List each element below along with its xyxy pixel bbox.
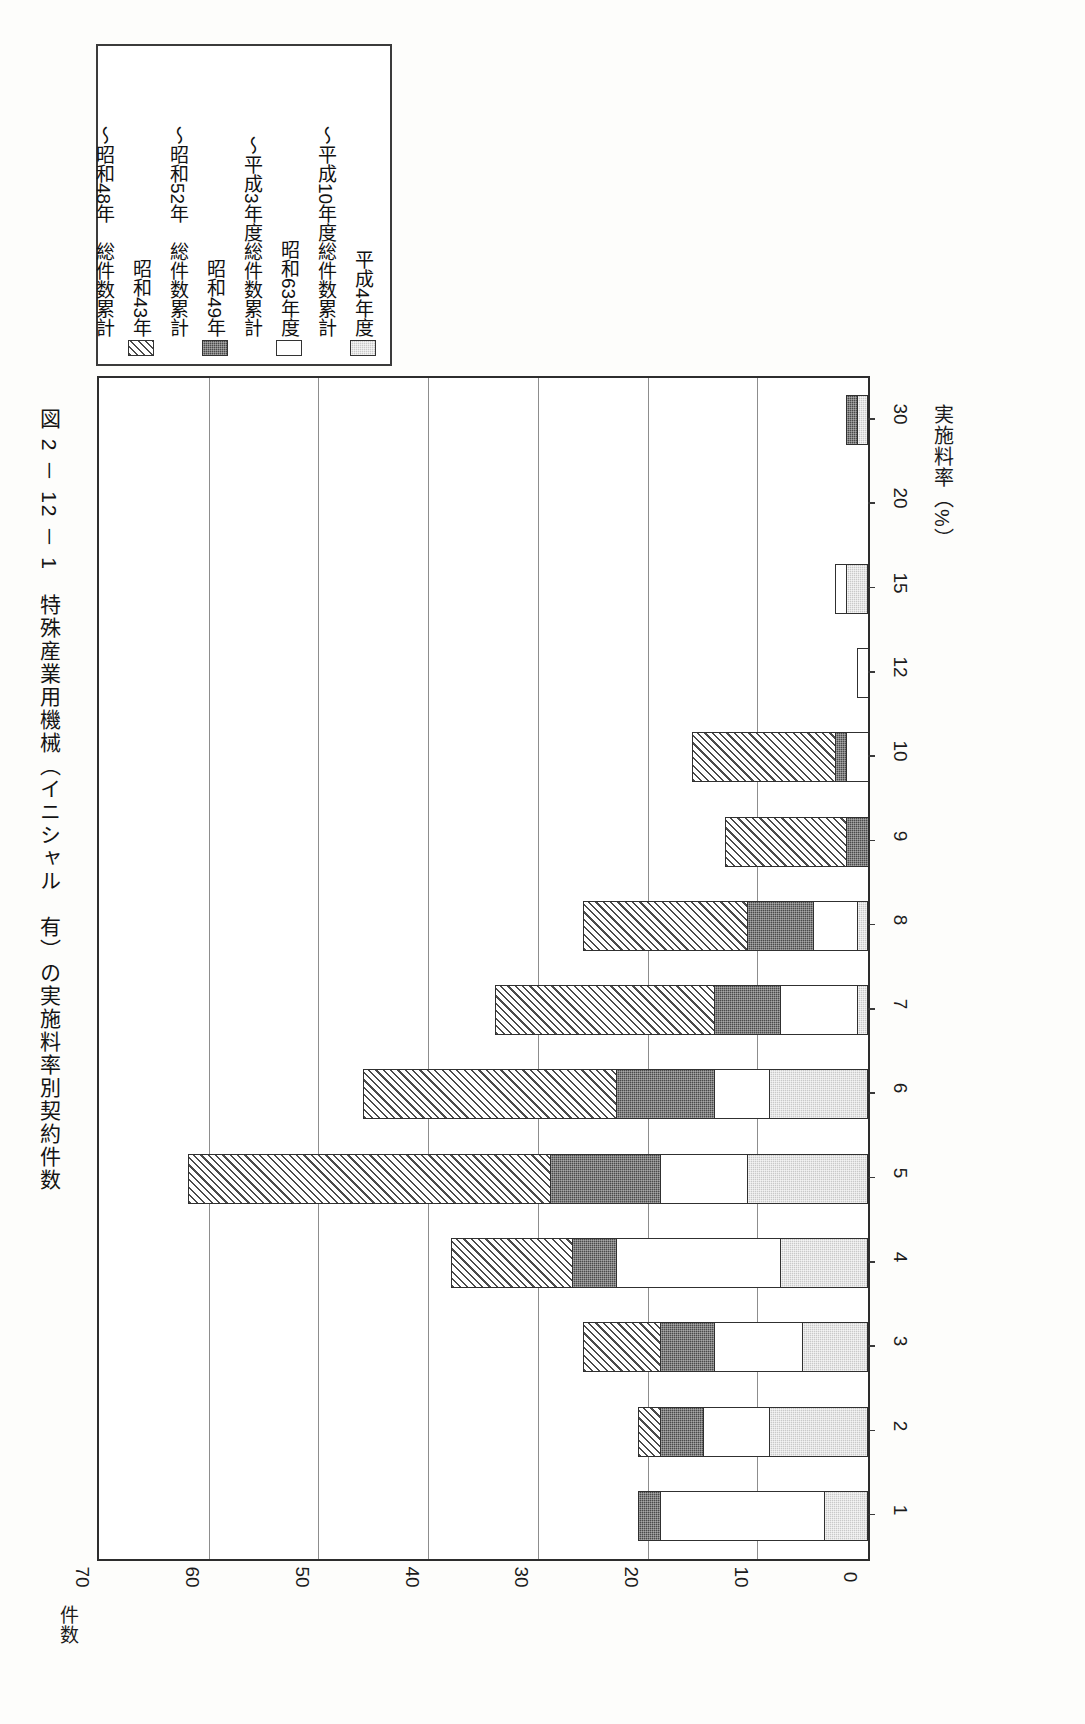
legend-swatch-none [239, 340, 265, 356]
bar-segment-white [780, 985, 857, 1035]
category-tick-4: 4 [874, 1246, 926, 1276]
value-tick-label: 70 [71, 1566, 93, 1587]
category-tick-label: 30 [889, 404, 911, 425]
value-tick-label: 20 [620, 1566, 642, 1587]
category-tick-label: 5 [889, 1167, 911, 1178]
value-axis-title: 件数 [52, 1606, 86, 1646]
category-tick-8: 8 [874, 909, 926, 939]
bar-row [363, 1069, 868, 1119]
category-tick-label: 10 [889, 741, 911, 762]
bar-segment-white [714, 1322, 802, 1372]
bar-segment-hatch [583, 901, 748, 951]
legend-item-label: 〜平成10年度総件数累計 [316, 126, 335, 337]
legend-item: 〜昭和48年 総件数累計 [86, 52, 121, 356]
legend-swatch-light-gray [350, 340, 376, 356]
value-tick-0: 0 [830, 1566, 870, 1588]
bar-segment-hatch [451, 1238, 572, 1288]
legend-swatch-none [165, 340, 191, 356]
bar-row [857, 648, 868, 698]
category-tick-label: 4 [889, 1252, 911, 1263]
category-tick-6: 6 [874, 1077, 926, 1107]
legend-item: 昭和63年度 [271, 52, 306, 356]
legend-item-label: 昭和63年度 [279, 240, 298, 337]
bar-segment-gray [780, 1238, 868, 1288]
bar-segment-white [616, 1238, 781, 1288]
bar-segment-gray [857, 901, 868, 951]
bar-segment-dark [660, 1407, 704, 1457]
bar-segment-dark [714, 985, 780, 1035]
bar-segment-white [846, 732, 868, 782]
bar-segment-gray [747, 1154, 868, 1204]
category-tick-label: 6 [889, 1083, 911, 1094]
category-tick-label: 20 [889, 488, 911, 509]
legend-item-label: 昭和49年 [205, 259, 224, 337]
category-tick-label: 9 [889, 830, 911, 841]
chart-legend: 平成4年度 〜平成10年度総件数累計 昭和63年度 〜平成3年度総件数累計 [96, 44, 392, 366]
category-tick-30: 30 [874, 403, 926, 433]
category-tick-15: 15 [874, 572, 926, 602]
value-tick-label: 0 [839, 1572, 861, 1583]
category-tick-label: 3 [889, 1336, 911, 1347]
bar-segment-white [835, 564, 846, 614]
legend-swatch-none [91, 340, 117, 356]
bar-row [583, 901, 868, 951]
bar-segment-dark [846, 817, 868, 867]
bar-row [692, 732, 868, 782]
value-tick-label: 10 [729, 1566, 751, 1587]
legend-item: 〜平成3年度総件数累計 [234, 52, 269, 356]
bar-segment-hatch [692, 732, 835, 782]
value-tick-70: 70 [62, 1566, 102, 1588]
bar-segment-dark [846, 395, 857, 445]
bar-segment-gray [857, 985, 868, 1035]
value-tick-label: 50 [290, 1566, 312, 1587]
bar-row [583, 1322, 868, 1372]
legend-item: 平成4年度 [345, 52, 380, 356]
bar-segment-hatch [188, 1154, 550, 1204]
bar-row [725, 817, 868, 867]
bar-row [638, 1407, 868, 1457]
legend-item-label: 〜昭和52年 総件数累計 [168, 126, 187, 337]
legend-swatch-dark [202, 340, 228, 356]
bar-segment-white [714, 1069, 769, 1119]
legend-item: 〜昭和52年 総件数累計 [160, 52, 195, 356]
category-tick-2: 2 [874, 1415, 926, 1445]
bar-row [188, 1154, 868, 1204]
category-tick-10: 10 [874, 740, 926, 770]
bar-segment-white [813, 901, 857, 951]
value-tick-10: 10 [720, 1566, 760, 1588]
category-axis-title: 実施料率（%） [928, 404, 957, 549]
category-tick-label: 7 [889, 999, 911, 1010]
value-axis-ticks: 706050403020100 [97, 1566, 870, 1626]
category-axis-ticks: 1234567891012152030 [874, 376, 926, 1561]
legend-item: 〜平成10年度総件数累計 [308, 52, 343, 356]
bar-row [835, 564, 868, 614]
category-tick-12: 12 [874, 656, 926, 686]
bar-segment-white [857, 648, 868, 698]
legend-swatch-none [313, 340, 339, 356]
value-tick-label: 30 [510, 1566, 532, 1587]
legend-swatch-white [276, 340, 302, 356]
bar-segment-dark [835, 732, 846, 782]
category-tick-20: 20 [874, 487, 926, 517]
category-tick-label: 2 [889, 1420, 911, 1431]
bar-segment-dark [550, 1154, 660, 1204]
legend-item: 昭和49年 [197, 52, 232, 356]
bar-row [846, 395, 868, 445]
value-tick-50: 50 [281, 1566, 321, 1588]
category-tick-7: 7 [874, 993, 926, 1023]
bar-segment-gray [857, 395, 868, 445]
value-axis-title-char: 数 [52, 1626, 86, 1646]
bar-rows [99, 378, 868, 1559]
value-axis-title-char: 件 [52, 1606, 86, 1626]
category-tick-label: 12 [889, 656, 911, 677]
bar-segment-hatch [363, 1069, 615, 1119]
category-tick-9: 9 [874, 825, 926, 855]
bar-segment-dark [638, 1491, 660, 1541]
bar-segment-white [703, 1407, 769, 1457]
category-tick-label: 8 [889, 915, 911, 926]
value-tick-60: 60 [172, 1566, 212, 1588]
bar-segment-gray [824, 1491, 868, 1541]
category-tick-label: 15 [889, 572, 911, 593]
bar-segment-hatch [495, 985, 714, 1035]
bar-segment-hatch [638, 1407, 660, 1457]
